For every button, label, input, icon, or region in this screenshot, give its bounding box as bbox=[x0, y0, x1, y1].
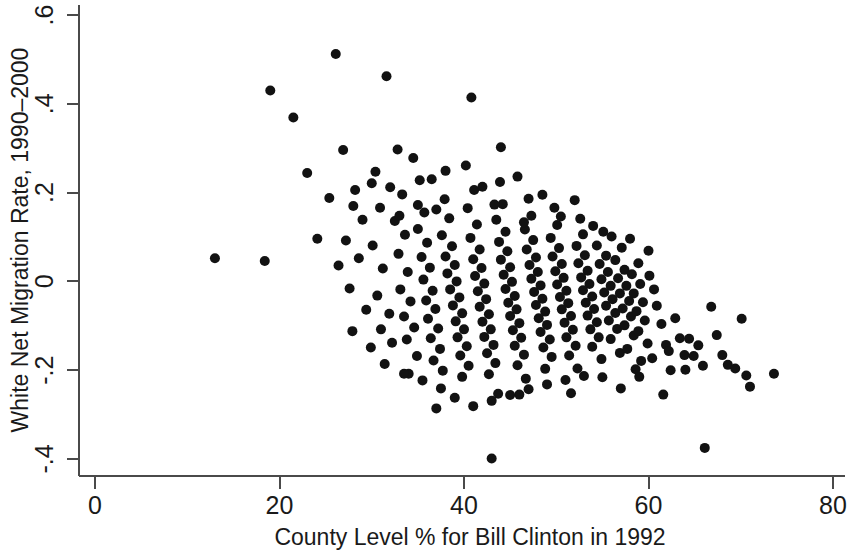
data-point bbox=[468, 401, 478, 411]
data-point bbox=[526, 274, 536, 284]
data-point bbox=[477, 182, 487, 192]
data-point bbox=[597, 372, 607, 382]
x-tick-label-4: 80 bbox=[819, 491, 847, 519]
data-point bbox=[604, 315, 614, 325]
data-point bbox=[461, 161, 471, 171]
data-point bbox=[487, 396, 497, 406]
data-point bbox=[617, 243, 627, 253]
data-point bbox=[380, 359, 390, 369]
data-point bbox=[457, 308, 467, 318]
data-point bbox=[491, 215, 501, 225]
data-point bbox=[482, 348, 492, 358]
data-point bbox=[513, 360, 523, 370]
data-point bbox=[438, 366, 448, 376]
data-point bbox=[554, 243, 564, 253]
data-point bbox=[629, 288, 639, 298]
data-point bbox=[652, 301, 662, 311]
data-point bbox=[610, 255, 620, 265]
data-point bbox=[477, 317, 487, 327]
data-point bbox=[635, 279, 645, 289]
data-point bbox=[419, 208, 429, 218]
data-point bbox=[592, 240, 602, 250]
data-point bbox=[620, 320, 630, 330]
data-point bbox=[505, 311, 515, 321]
x-axis-ticks bbox=[95, 476, 833, 489]
data-point bbox=[406, 296, 416, 306]
data-point bbox=[510, 341, 520, 351]
data-point bbox=[312, 234, 322, 244]
data-point bbox=[341, 236, 351, 246]
data-point bbox=[616, 383, 626, 393]
data-point bbox=[494, 237, 504, 247]
data-point bbox=[505, 262, 515, 272]
data-point bbox=[413, 224, 423, 234]
data-point bbox=[465, 233, 475, 243]
data-point bbox=[524, 384, 534, 394]
data-point bbox=[457, 372, 467, 382]
data-point bbox=[741, 371, 751, 381]
data-point bbox=[555, 292, 565, 302]
data-point bbox=[441, 166, 451, 176]
data-point bbox=[670, 313, 680, 323]
data-point bbox=[647, 353, 657, 363]
data-point bbox=[393, 145, 403, 155]
data-point bbox=[489, 340, 499, 350]
data-point bbox=[429, 355, 439, 365]
data-point bbox=[638, 297, 648, 307]
data-point bbox=[415, 175, 425, 185]
data-point bbox=[613, 273, 623, 283]
data-point bbox=[447, 241, 457, 251]
data-point bbox=[521, 374, 531, 384]
data-point bbox=[417, 375, 427, 385]
data-point bbox=[505, 390, 515, 400]
data-point bbox=[513, 172, 523, 182]
data-point bbox=[412, 351, 422, 361]
data-point bbox=[557, 304, 567, 314]
data-point bbox=[531, 300, 541, 310]
data-point bbox=[462, 341, 472, 351]
data-point bbox=[658, 390, 668, 400]
data-point bbox=[680, 365, 690, 375]
data-point bbox=[595, 259, 605, 269]
data-point bbox=[367, 178, 377, 188]
data-point bbox=[531, 252, 541, 262]
data-point bbox=[496, 142, 506, 152]
data-point bbox=[495, 177, 505, 187]
data-point bbox=[490, 358, 500, 368]
data-point bbox=[529, 287, 539, 297]
data-point bbox=[472, 220, 482, 230]
data-point bbox=[596, 274, 606, 284]
data-point bbox=[737, 314, 747, 324]
data-point bbox=[395, 284, 405, 294]
data-point bbox=[730, 363, 740, 373]
data-point bbox=[538, 343, 548, 353]
data-point bbox=[706, 302, 716, 312]
data-point bbox=[547, 352, 557, 362]
data-point bbox=[368, 240, 378, 250]
data-point bbox=[387, 338, 397, 348]
data-point bbox=[615, 288, 625, 298]
data-point bbox=[487, 454, 497, 464]
data-point bbox=[575, 214, 585, 224]
data-point bbox=[519, 350, 529, 360]
data-point bbox=[399, 369, 409, 379]
data-point bbox=[633, 258, 643, 268]
data-point bbox=[408, 153, 418, 163]
data-point bbox=[525, 260, 535, 270]
data-point bbox=[560, 375, 570, 385]
data-point bbox=[596, 354, 606, 364]
data-point bbox=[644, 271, 654, 281]
data-point bbox=[451, 316, 461, 326]
data-point bbox=[331, 49, 341, 59]
data-point bbox=[484, 369, 494, 379]
data-point bbox=[358, 215, 368, 225]
data-point bbox=[622, 344, 632, 354]
data-point bbox=[570, 195, 580, 205]
data-point bbox=[475, 244, 485, 254]
data-point bbox=[546, 233, 556, 243]
scatter-plot-figure: .6.4.20-.2-.4 020406080 White Net Migrat… bbox=[0, 0, 857, 553]
data-point bbox=[366, 343, 376, 353]
y-tick-label-1: .4 bbox=[30, 93, 58, 114]
data-point bbox=[430, 304, 440, 314]
data-point bbox=[376, 324, 386, 334]
